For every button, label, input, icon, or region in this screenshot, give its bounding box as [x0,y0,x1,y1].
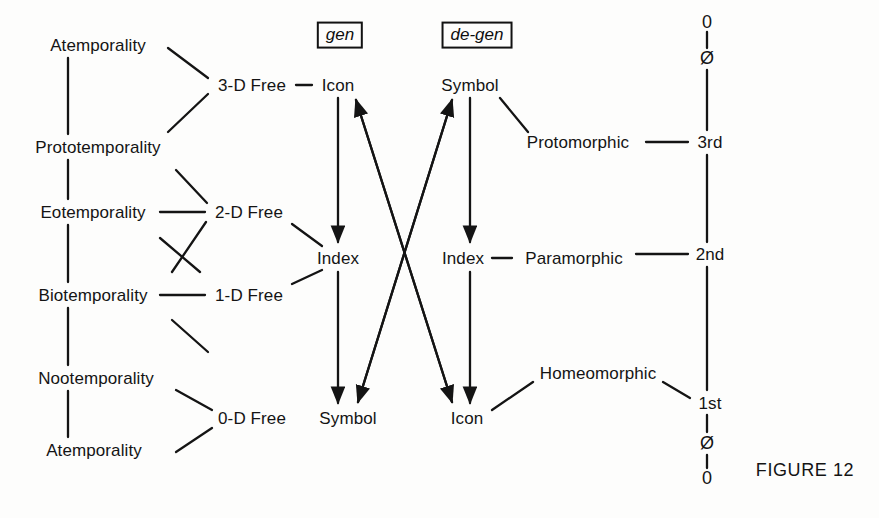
axis-1st: 1st [699,395,722,412]
link-atemporality-3dfree [168,48,208,78]
link-biotemporality-0dfree [172,320,208,352]
arrow-gen-icon-down-to-degen-icon [356,100,452,402]
morphic-protomorphic: Protomorphic [527,134,629,151]
degen-icon-label: Icon [451,410,484,427]
axis-3rd: 3rd [698,134,723,151]
temporality-biotemporality: Biotemporality [38,287,147,304]
temporality-eotemporality: Eotemporality [40,204,145,221]
link-atemporality2-0dfree [176,428,212,452]
axis-bottom-slashed-zero: Ø [700,434,714,452]
gen-index-label: Index [317,250,359,267]
link-homeomorphic-1st [663,382,690,398]
gen-icon-label: Icon [322,77,355,94]
freedom-2d-free: 2-D Free [215,204,283,221]
temporality-prototemporality: Prototemporality [35,139,160,156]
axis-bottom-zero: 0 [702,469,712,487]
degen-symbol-label: Symbol [441,77,498,94]
temporality-nootemporality: Nootemporality [38,370,154,387]
link-nootemporality-0dfree [176,390,212,410]
arrow-degen-icon-to-gen-icon [356,100,452,402]
link-icon-homeomorphic [492,382,533,410]
figure-12-diagram: Atemporality Prototemporality Eotemporal… [0,0,879,518]
arrow-gen-symbol-to-degen-symbol [358,100,452,402]
link-eotemporality-1dfree [160,238,200,272]
axis-top-zero: 0 [702,13,712,31]
link-biotemporality-2dfree [172,222,206,272]
de-gen-box-label: de-gen [442,22,513,49]
temporality-atemporality-bottom: Atemporality [46,442,142,459]
link-1dfree-index [292,270,322,284]
arrow-degen-symbol-down-to-gen-symbol [358,100,452,402]
figure-caption: FIGURE 12 [756,460,854,481]
link-symbol-protomorphic [500,98,528,132]
axis-2nd: 2nd [696,246,725,263]
freedom-3d-free: 3-D Free [218,77,286,94]
link-2dfree-index [292,224,322,246]
link-prototemporality-3dfree [168,94,208,132]
morphic-homeomorphic: Homeomorphic [540,365,656,382]
link-prototemporality-2dfree [176,170,207,203]
axis-top-slashed-zero: Ø [700,49,714,67]
freedom-0d-free: 0-D Free [218,410,286,427]
degen-index-label: Index [442,250,484,267]
gen-box-label: gen [317,22,363,49]
gen-symbol-label: Symbol [319,410,376,427]
morphic-paramorphic: Paramorphic [525,250,622,267]
freedom-1d-free: 1-D Free [215,287,283,304]
temporality-atemporality-top: Atemporality [50,37,146,54]
